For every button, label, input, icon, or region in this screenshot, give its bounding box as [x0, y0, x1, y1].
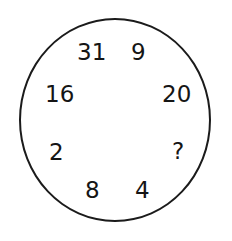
puzzle-canvas: 31 9 16 20 2 ? 8 4 — [0, 0, 232, 241]
puzzle-number-missing-placeholder: ? — [172, 140, 184, 163]
puzzle-number-bottom-right: 4 — [135, 179, 150, 202]
puzzle-number-top-left: 31 — [77, 41, 107, 64]
puzzle-number-right-upper: 20 — [162, 83, 192, 106]
circle-outline — [19, 18, 211, 222]
puzzle-number-top-right: 9 — [131, 41, 146, 64]
puzzle-number-bottom-left: 8 — [85, 179, 100, 202]
puzzle-number-left-upper: 16 — [45, 83, 75, 106]
puzzle-number-left-lower: 2 — [49, 141, 64, 164]
